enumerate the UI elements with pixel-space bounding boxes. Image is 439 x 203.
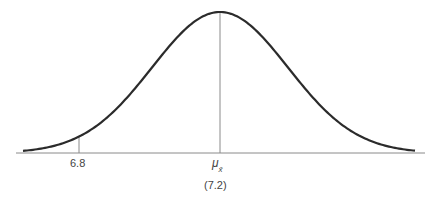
tick-label-6-8: 6.8: [70, 158, 85, 169]
mean-symbol-label: μx̄: [212, 157, 223, 172]
mu-symbol: μ: [212, 156, 219, 170]
normal-curve: [23, 12, 415, 151]
x-bar-subscript: x̄: [219, 165, 223, 174]
mean-value-label: (7.2): [204, 180, 227, 191]
